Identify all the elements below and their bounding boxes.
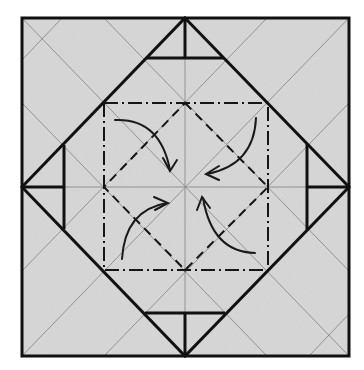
origami-diagram — [0, 0, 364, 370]
